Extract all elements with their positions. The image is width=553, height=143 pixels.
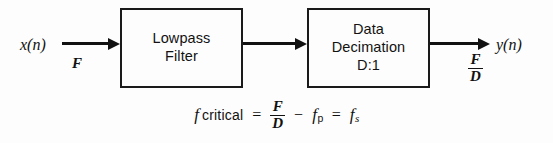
input-signal-label: x(n) bbox=[20, 36, 46, 54]
arrowhead-icon bbox=[295, 38, 307, 50]
block-decimation-line3: D:1 bbox=[357, 57, 380, 75]
passband-symbol: f bbox=[312, 105, 317, 125]
equation-lhs: f critical bbox=[194, 105, 243, 125]
arrow-shaft bbox=[430, 42, 480, 45]
equation-lhs-symbol: f bbox=[194, 105, 202, 125]
arrowhead-icon bbox=[478, 38, 490, 50]
equation-fraction-numerator: F bbox=[271, 99, 285, 115]
output-rate-numerator: F bbox=[468, 52, 482, 68]
output-arrow bbox=[430, 38, 490, 50]
equation-minus-operator: − bbox=[292, 106, 305, 124]
output-sample-rate-fraction: F D bbox=[468, 52, 483, 85]
decimation-block-diagram: x(n) F Lowpass Filter Data Decimation D:… bbox=[0, 0, 553, 143]
equation-equals-first: = bbox=[250, 106, 263, 124]
arrowhead-icon bbox=[108, 38, 120, 50]
interstage-arrow bbox=[243, 38, 307, 50]
equation-passband-term: f p bbox=[312, 105, 323, 125]
stopband-subscript: s bbox=[355, 112, 359, 124]
equation-stopband-term: f s bbox=[350, 105, 359, 125]
arrow-shaft bbox=[243, 42, 297, 45]
input-arrow bbox=[62, 38, 120, 50]
equation-equals-second: = bbox=[330, 106, 343, 124]
block-data-decimation: Data Decimation D:1 bbox=[307, 8, 430, 88]
block-decimation-line1: Data bbox=[353, 21, 384, 39]
output-rate-denominator: D bbox=[468, 68, 483, 85]
critical-frequency-equation: f critical = F D − f p = f s bbox=[0, 99, 553, 132]
input-sample-rate-label: F bbox=[72, 55, 82, 72]
equation-lhs-word: critical bbox=[202, 107, 243, 123]
equation-fraction-denominator: D bbox=[270, 115, 285, 132]
passband-subscript: p bbox=[317, 112, 323, 124]
block-lowpass-line1: Lowpass bbox=[153, 30, 211, 48]
block-lowpass-line2: Filter bbox=[165, 48, 198, 66]
block-lowpass-filter: Lowpass Filter bbox=[120, 8, 243, 88]
block-decimation-line2: Decimation bbox=[332, 39, 406, 57]
arrow-shaft bbox=[62, 42, 110, 45]
stopband-symbol: f bbox=[350, 105, 355, 125]
output-signal-label: y(n) bbox=[496, 36, 522, 54]
equation-rate-fraction: F D bbox=[270, 99, 285, 132]
